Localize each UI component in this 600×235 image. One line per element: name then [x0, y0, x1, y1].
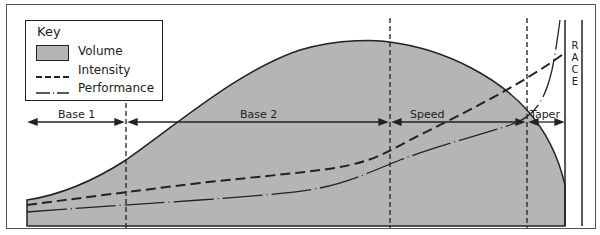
dashed-line-icon	[36, 76, 69, 78]
phase-base2-label: Base 2	[240, 108, 277, 121]
volume-swatch-icon	[36, 45, 69, 61]
phase-speed-label: Speed	[410, 108, 444, 121]
legend: Key Volume Intensity Performance	[25, 20, 163, 101]
dash-dot-line-icon	[36, 91, 69, 95]
race-text: R A C E	[571, 40, 579, 88]
phase-base1-label: Base 1	[58, 108, 95, 121]
legend-volume-label: Volume	[78, 44, 123, 58]
legend-performance-label: Performance	[78, 81, 154, 95]
legend-intensity-label: Intensity	[78, 63, 130, 77]
legend-title: Key	[37, 24, 61, 39]
race-label: R A C E	[569, 40, 581, 88]
phase-taper-label: Taper	[530, 108, 560, 121]
